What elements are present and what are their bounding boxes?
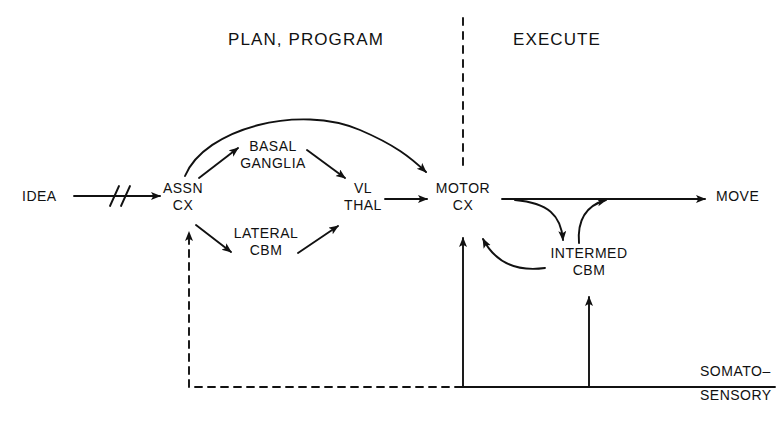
edge-motor-cx-to-intermed-cbm bbox=[515, 200, 563, 240]
node-basal-ganglia: BASAL GANGLIA bbox=[237, 138, 309, 171]
node-intermed-cbm: INTERMED CBM bbox=[546, 245, 632, 278]
node-basal-ganglia-line1: BASAL bbox=[237, 138, 309, 155]
edge-assn-cx-to-basal-ganglia bbox=[199, 148, 238, 178]
node-assn-cx-line1: ASSN bbox=[160, 180, 206, 197]
node-motor-cx: MOTOR CX bbox=[430, 180, 496, 213]
edge-assn-cx-to-lateral-cbm bbox=[196, 225, 231, 252]
section-title-execute: EXECUTE bbox=[513, 30, 601, 50]
node-motor-cx-line1: MOTOR bbox=[430, 180, 496, 197]
edge-lateral-cbm-to-vl-thal bbox=[298, 226, 338, 253]
node-somato-sensory-line2: SENSORY bbox=[700, 387, 780, 404]
node-assn-cx: ASSN CX bbox=[160, 180, 206, 213]
node-assn-cx-line2: CX bbox=[160, 197, 206, 214]
node-lateral-cbm-line2: CBM bbox=[232, 242, 300, 259]
motor-control-flow-diagram: PLAN, PROGRAM EXECUTE IDEA ASSN CX BASAL… bbox=[0, 0, 784, 433]
edge-intermed-cbm-to-move bbox=[579, 200, 606, 243]
section-title-plan-program: PLAN, PROGRAM bbox=[228, 30, 384, 50]
edge-somatosensory-to-assn-cx bbox=[189, 232, 462, 387]
diagram-canvas bbox=[0, 0, 784, 433]
edge-intermed-cbm-to-motor-cx bbox=[483, 239, 545, 269]
node-somato-sensory-line1: SOMATO– bbox=[700, 363, 780, 380]
node-idea-label: IDEA bbox=[22, 188, 57, 204]
node-vl-thal: VL THAL bbox=[340, 180, 386, 213]
node-vl-thal-line1: VL bbox=[340, 180, 386, 197]
node-intermed-cbm-line2: CBM bbox=[546, 262, 632, 279]
node-idea: IDEA bbox=[22, 188, 57, 205]
node-vl-thal-line2: THAL bbox=[340, 197, 386, 214]
node-move-label: MOVE bbox=[716, 188, 759, 204]
node-intermed-cbm-line1: INTERMED bbox=[546, 245, 632, 262]
plan-program-text: PLAN, PROGRAM bbox=[228, 30, 384, 49]
node-move: MOVE bbox=[716, 188, 759, 205]
node-somato-sensory: SOMATO– SENSORY bbox=[700, 363, 780, 403]
node-motor-cx-line2: CX bbox=[430, 197, 496, 214]
node-lateral-cbm: LATERAL CBM bbox=[232, 225, 300, 258]
node-lateral-cbm-line1: LATERAL bbox=[232, 225, 300, 242]
edge-basal-ganglia-to-vl-thal bbox=[307, 150, 345, 178]
execute-text: EXECUTE bbox=[513, 30, 601, 49]
node-basal-ganglia-line2: GANGLIA bbox=[237, 155, 309, 172]
edge-idea-to-assn-cx bbox=[74, 186, 160, 206]
